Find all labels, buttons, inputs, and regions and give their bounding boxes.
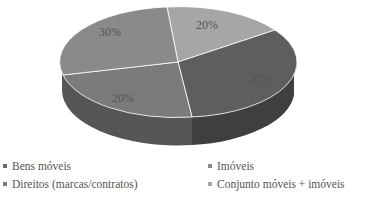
legend-item-direitos[interactable]: Direitos (marcas/contratos) xyxy=(3,178,138,190)
legend-item-bens-moveis[interactable]: Bens móveis xyxy=(3,160,71,172)
legend-marker-icon xyxy=(3,164,7,168)
legend-label: Direitos (marcas/contratos) xyxy=(12,178,138,190)
chart-legend: Bens móveis Imóveis Direitos (marcas/con… xyxy=(0,0,372,208)
legend-label: Conjunto móveis + imóveis xyxy=(217,178,345,190)
legend-item-imoveis[interactable]: Imóveis xyxy=(208,160,254,172)
legend-marker-icon xyxy=(208,182,212,186)
legend-label: Imóveis xyxy=(217,160,254,172)
legend-label: Bens móveis xyxy=(12,160,71,172)
legend-item-conjunto[interactable]: Conjunto móveis + imóveis xyxy=(208,178,345,190)
legend-marker-icon xyxy=(208,164,212,168)
legend-marker-icon xyxy=(3,182,7,186)
